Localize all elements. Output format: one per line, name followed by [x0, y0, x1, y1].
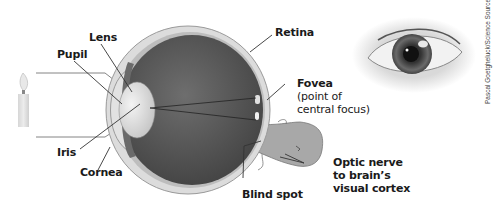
- label-blind-spot: Blind spot: [242, 188, 303, 201]
- eye-photo: [352, 17, 476, 93]
- label-optic-nerve-1: Optic nerve: [333, 156, 403, 169]
- label-fovea-note-1: (point of: [297, 90, 342, 103]
- label-cornea: Cornea: [80, 166, 123, 179]
- label-retina: Retina: [275, 26, 314, 39]
- label-optic-nerve-2: to brain’s: [333, 169, 391, 182]
- label-optic-nerve-3: visual cortex: [333, 182, 410, 195]
- label-fovea: Fovea: [297, 77, 333, 90]
- label-lens: Lens: [89, 31, 117, 44]
- label-iris: Iris: [57, 146, 76, 159]
- candle-icon: [18, 73, 29, 127]
- photo-credit: Pascal Goetgheluck/Science Source: [484, 0, 491, 104]
- label-fovea-note-2: central focus): [297, 103, 370, 116]
- label-pupil: Pupil: [57, 48, 87, 61]
- eye-diagram-graphic: [0, 0, 501, 212]
- eyeball-cross-section: [106, 26, 270, 194]
